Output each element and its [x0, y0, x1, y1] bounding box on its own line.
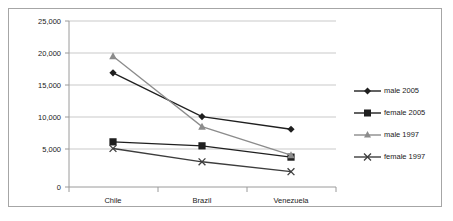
x-label-chile: Chile: [104, 196, 121, 205]
axes: [65, 21, 336, 192]
triangle-marker-icon: [364, 131, 371, 138]
y-label-20000: 20,000: [38, 49, 61, 58]
square-marker-icon: [364, 110, 371, 117]
chart-container: 25,000 20,000 15,000 10,000 5,000 0 Chil…: [8, 8, 442, 207]
x-label-venezuela: Venezuela: [273, 196, 309, 205]
diamond-marker-icon: [198, 113, 205, 120]
diamond-marker-icon: [109, 69, 116, 76]
legend-label-male-2005: male 2005: [384, 86, 419, 95]
chart-legend: male 2005 female 2005 male 1997 female 1…: [354, 86, 425, 161]
x-label-brazil: Brazil: [193, 196, 212, 205]
legend-label-female-2005: female 2005: [384, 108, 425, 117]
series-line-3: [113, 148, 291, 171]
legend-label-female-1997: female 1997: [384, 152, 425, 161]
series-female-1997: [110, 145, 295, 175]
y-axis-labels: 25,000 20,000 15,000 10,000 5,000 0: [38, 17, 61, 192]
y-label-25000: 25,000: [38, 17, 61, 26]
gridlines: [69, 21, 336, 149]
square-marker-icon: [198, 142, 205, 149]
y-label-0: 0: [57, 183, 61, 192]
y-label-15000: 15,000: [38, 81, 61, 90]
legend-item-male-1997[interactable]: male 1997: [354, 130, 419, 139]
line-chart: 25,000 20,000 15,000 10,000 5,000 0 Chil…: [9, 9, 443, 208]
series-layer: [109, 52, 295, 175]
legend-item-female-1997[interactable]: female 1997: [354, 152, 425, 161]
series-line-0: [113, 73, 291, 129]
series-line-2: [113, 56, 291, 155]
x-axis-labels: Chile Brazil Venezuela: [104, 196, 309, 205]
y-label-10000: 10,000: [38, 113, 61, 122]
y-label-5000: 5,000: [42, 145, 61, 154]
diamond-marker-icon: [364, 88, 371, 95]
legend-item-female-2005[interactable]: female 2005: [354, 108, 425, 117]
diamond-marker-icon: [287, 126, 294, 133]
square-marker-icon: [109, 138, 116, 145]
legend-item-male-2005[interactable]: male 2005: [354, 86, 419, 95]
legend-label-male-1997: male 1997: [384, 130, 419, 139]
